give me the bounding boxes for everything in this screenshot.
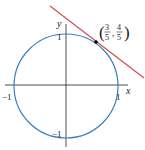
comma: , — [112, 28, 114, 38]
paren-close: ) — [124, 23, 130, 42]
unit-circle-diagram: y x 1 −1 −1 1 ( 3 5 , 4 5 ) — [0, 0, 145, 150]
tick-x-pos: 1 — [116, 92, 121, 102]
x-axis-label: x — [125, 85, 131, 96]
tangent-point — [94, 40, 98, 44]
frac-x-den: 5 — [105, 33, 109, 42]
tick-y-neg: −1 — [52, 129, 62, 139]
frac-x-num: 3 — [105, 23, 109, 32]
tick-y-pos: 1 — [57, 32, 62, 42]
tick-x-neg: −1 — [2, 92, 12, 102]
y-axis-label: y — [56, 18, 62, 29]
frac-y-num: 4 — [117, 23, 121, 32]
point-label: ( 3 5 , 4 5 ) — [99, 23, 130, 42]
frac-y-den: 5 — [117, 33, 121, 42]
